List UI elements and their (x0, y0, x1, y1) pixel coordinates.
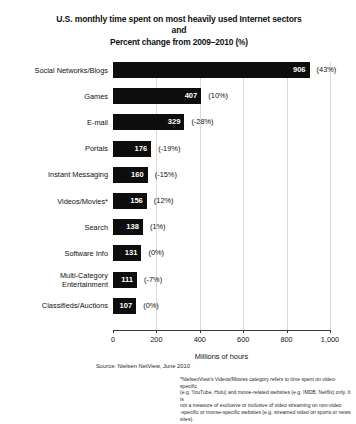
chart-plot-area: 906(43%)407(10%)329(-28%)176(-19%)160(-1… (0, 58, 356, 333)
bar-value-label: 111 (113, 272, 137, 288)
bar-percent-label: (-15%) (155, 167, 177, 183)
x-tick-label: 0 (111, 335, 115, 344)
bar-value-label: 176 (113, 141, 151, 157)
bar-row: 111(-7%) (113, 272, 330, 288)
bar-value-label: 156 (113, 193, 147, 209)
chart-title: U.S. monthly time spent on most heavily … (18, 14, 340, 48)
bar-value-label: 138 (113, 219, 143, 235)
x-tick-mark (330, 330, 331, 333)
x-tick-mark (113, 330, 114, 333)
x-tick-mark (156, 330, 157, 333)
bar-percent-label: (0%) (143, 298, 159, 314)
category-label: Videos/Movies* (10, 197, 108, 206)
bar-row: 156(12%) (113, 193, 330, 209)
bar-row: 138(1%) (113, 219, 330, 235)
category-label: Social Networks/Blogs (10, 66, 108, 75)
title-line-3: Percent change from 2009–2010 (%) (18, 37, 340, 48)
category-label: Instant Messaging (10, 170, 108, 179)
x-tick-label: 800 (281, 335, 293, 344)
x-axis-line (113, 330, 331, 331)
bar-percent-label: (1%) (150, 219, 166, 235)
category-label: Software Info (10, 249, 108, 258)
bar-percent-label: (43%) (317, 62, 337, 78)
bar-row: 160(-15%) (113, 167, 330, 183)
x-tick-mark (243, 330, 244, 333)
bar-percent-label: (10%) (208, 88, 228, 104)
footnote-line-2: (e.g. YouTube, Hulu) and movie-related w… (180, 389, 352, 402)
x-tick-label: 600 (237, 335, 249, 344)
bar-row: 107(0%) (113, 298, 330, 314)
bar-row: 906(43%) (113, 62, 330, 78)
footnote-line-1: *NielsenView's Videos/Movies category re… (180, 376, 352, 389)
bar-value-label: 906 (113, 62, 310, 78)
category-label: Games (10, 92, 108, 101)
x-axis-title: Millions of hours (113, 352, 330, 361)
bar-value-label: 329 (113, 114, 184, 130)
bar-percent-label: (-28%) (191, 114, 213, 130)
chart-figure: U.S. monthly time spent on most heavily … (0, 0, 356, 424)
footnote-line-4: -specific or movse-specific websites (e.… (180, 409, 352, 422)
bar-percent-label: (-7%) (144, 272, 162, 288)
bar-value-label: 407 (113, 88, 201, 104)
footnote: *NielsenView's Videos/Movies category re… (180, 376, 352, 422)
source-note: Source: Nielsen NetView, June 2010 (96, 363, 190, 369)
x-tick-label: 1,000 (321, 335, 339, 344)
x-tick-mark (287, 330, 288, 333)
bar-percent-label: (0%) (148, 245, 164, 261)
title-line-2: and (18, 25, 340, 36)
category-label: Multi-CategoryEntertainment (10, 271, 108, 289)
x-tick-label: 400 (194, 335, 206, 344)
footnote-line-3: not a measure of exclusive or inclusive … (180, 402, 352, 409)
category-label: Classifieds/Auctions (10, 301, 108, 310)
bar-percent-label: (-19%) (158, 141, 180, 157)
bar-value-label: 131 (113, 245, 141, 261)
category-label: Portals (10, 144, 108, 153)
bar-row: 176(-19%) (113, 141, 330, 157)
category-label: Search (10, 223, 108, 232)
bars-container: 906(43%)407(10%)329(-28%)176(-19%)160(-1… (113, 62, 330, 330)
bar-row: 131(0%) (113, 245, 330, 261)
bar-row: 407(10%) (113, 88, 330, 104)
bar-percent-label: (12%) (154, 193, 174, 209)
bar-value-label: 107 (113, 298, 136, 314)
bar-value-label: 160 (113, 167, 148, 183)
gridline (330, 62, 331, 330)
bar-row: 329(-28%) (113, 114, 330, 130)
x-tick-mark (200, 330, 201, 333)
title-line-1: U.S. monthly time spent on most heavily … (18, 14, 340, 25)
category-label: E-mail (10, 118, 108, 127)
x-tick-label: 200 (150, 335, 162, 344)
